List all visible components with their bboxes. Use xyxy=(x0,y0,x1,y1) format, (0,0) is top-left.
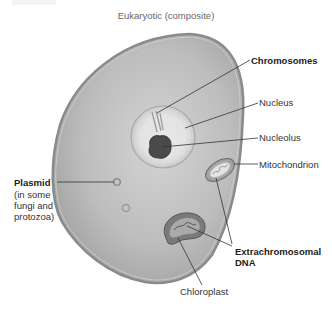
label-plasmid-note-3: protozoa) xyxy=(14,211,54,222)
label-mitochondrion: Mitochondrion xyxy=(259,159,319,170)
label-extrachromosomal-dna-2: DNA xyxy=(235,257,256,268)
label-chloroplast: Chloroplast xyxy=(180,286,228,297)
label-plasmid: Plasmid xyxy=(14,177,50,188)
label-plasmid-note-1: (in some xyxy=(14,189,50,200)
cell-diagram xyxy=(0,0,332,310)
label-chromosomes: Chromosomes xyxy=(251,55,318,66)
label-nucleus: Nucleus xyxy=(259,97,293,108)
nucleolus xyxy=(149,135,171,158)
label-nucleolus: Nucleolus xyxy=(259,132,301,143)
label-extrachromosomal-dna-1: Extrachromosomal xyxy=(235,246,321,257)
label-plasmid-note-2: fungi and xyxy=(14,200,53,211)
